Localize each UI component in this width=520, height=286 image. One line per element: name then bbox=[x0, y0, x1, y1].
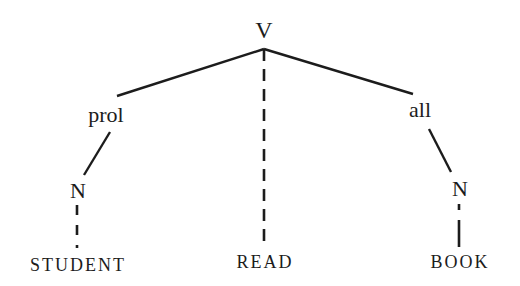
leaf-student: STUDENT bbox=[30, 255, 126, 275]
leaf-read: READ bbox=[237, 252, 294, 272]
node-n-left: N bbox=[70, 178, 86, 203]
node-all: all bbox=[409, 97, 431, 122]
edge-all-n bbox=[429, 129, 451, 172]
edge-v-all bbox=[264, 49, 413, 94]
node-n-right: N bbox=[452, 176, 468, 201]
edge-v-prol bbox=[117, 49, 264, 96]
node-prol: prol bbox=[88, 102, 123, 127]
edge-prol-n bbox=[84, 132, 110, 175]
node-v: V bbox=[255, 17, 273, 43]
leaf-book: BOOK bbox=[430, 252, 489, 272]
syntax-tree-diagram: V prol all N N STUDENT READ BOOK bbox=[0, 0, 520, 286]
